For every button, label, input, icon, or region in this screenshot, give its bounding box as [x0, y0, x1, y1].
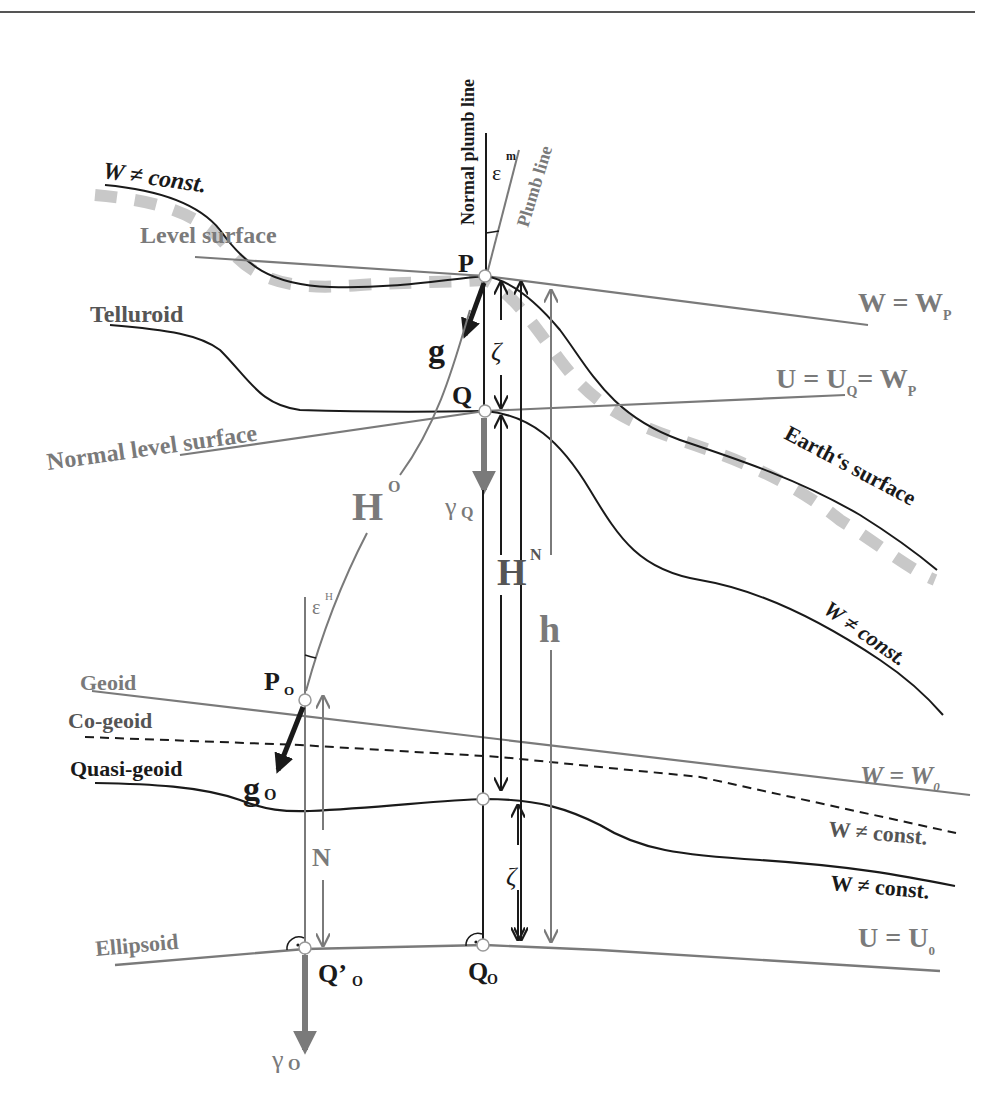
point-qo — [477, 939, 489, 951]
qo-base: Q — [468, 957, 488, 986]
u-eq-uq-base: U = U — [776, 363, 846, 394]
w-eq-wp-line — [485, 276, 868, 325]
u-eq-u0-base: U = U — [858, 922, 928, 953]
point-po — [299, 694, 311, 706]
u-eq-wp-mid: = W — [857, 363, 907, 394]
label-point-qo: Q O — [468, 957, 498, 987]
earths-surface-curve — [485, 276, 937, 570]
label-ellipsoid: Ellipsoid — [94, 929, 179, 961]
go-vector-arrow — [278, 707, 303, 770]
label-normal-level-surface: Normal level surface — [45, 420, 259, 475]
label-w-not-const-quasigeoid: W ≠ const. — [830, 870, 931, 904]
geodetic-height-diagram: W ≠ const. Level surface Telluroid Norma… — [0, 0, 1004, 1118]
label-g-o: g O — [243, 770, 276, 807]
label-plumb-line: Plumb line — [513, 143, 557, 229]
label-w-eq-w0: W = W0 — [860, 761, 940, 794]
label-zeta-top: ζ — [491, 337, 503, 366]
label-w-eq-wp: W = WP — [858, 287, 952, 323]
h-o-base: H — [352, 484, 383, 529]
label-epsilon-h: ε H — [312, 590, 333, 618]
label-w-not-const-cogeoid: W ≠ const. — [828, 816, 929, 850]
epsilon-h-sup: H — [325, 590, 333, 602]
label-quasi-geoid: Quasi-geoid — [70, 756, 182, 781]
label-gamma-o: γ O — [271, 1045, 300, 1074]
gamma-o-base: γ — [271, 1045, 284, 1074]
h-n-sup: N — [530, 546, 542, 563]
label-point-q: Q — [452, 381, 472, 410]
label-point-po: P O — [264, 667, 294, 698]
label-H-O: H O — [352, 478, 400, 529]
label-u-eq-uq-eq-wp: U = UQ= WP — [776, 363, 917, 399]
label-epsilon-m: ε m — [492, 149, 516, 185]
u-eq-uq-line — [485, 395, 845, 411]
gamma-o-sub: O — [288, 1056, 300, 1073]
w-eq-wp-sub: P — [943, 308, 952, 323]
h-o-sup: O — [388, 478, 400, 495]
w-not-const-right-curve — [485, 411, 943, 715]
u-eq-uq-sub: Q — [846, 384, 857, 399]
label-point-q-prime-o: Q’ O — [318, 959, 363, 989]
po-base: P — [264, 667, 280, 696]
label-g: g — [428, 332, 445, 369]
epsilon-h-angle-arc — [305, 655, 316, 658]
u-eq-u0-sub: 0 — [928, 943, 935, 958]
label-level-surface: Level surface — [140, 222, 277, 248]
h-n-base: H — [497, 551, 527, 593]
label-gamma-q: γ Q — [444, 492, 473, 521]
label-point-p: P — [458, 249, 474, 278]
label-zeta-bottom: ζ — [506, 862, 518, 891]
label-geoid: Geoid — [80, 670, 136, 695]
gamma-q-base: γ — [444, 492, 457, 521]
gamma-q-sub: Q — [461, 504, 473, 521]
go-sub: O — [264, 786, 276, 803]
epsilon-m-base: ε — [492, 160, 501, 185]
g-vector-arrow — [465, 283, 484, 335]
point-q-prime-o — [299, 942, 311, 954]
label-co-geoid: Co-geoid — [68, 708, 152, 733]
ellipsoid-line — [115, 945, 940, 971]
label-telluroid: Telluroid — [90, 301, 184, 327]
label-h: h — [539, 608, 560, 650]
qo-sub: O — [487, 972, 498, 987]
label-u-eq-u0: U = U0 — [858, 922, 935, 958]
u-eq-wp-sub: P — [908, 384, 917, 399]
w-eq-wp-base: W = W — [858, 287, 943, 318]
epsilon-m-sup: m — [506, 149, 516, 163]
q-prime-o-base: Q’ — [318, 959, 347, 988]
go-base: g — [243, 770, 260, 807]
point-quasi-geoid — [477, 793, 489, 805]
label-H-N: H N — [497, 546, 542, 593]
quasi-geoid-curve — [95, 783, 955, 886]
q-prime-o-sub: O — [352, 974, 363, 989]
epsilon-h-base: ε — [312, 596, 320, 618]
label-normal-plumb-line: Normal plumb line — [458, 79, 478, 225]
w-eq-w0-base: W = W — [860, 761, 935, 790]
w-eq-w0-sub: 0 — [933, 779, 940, 794]
po-sub: O — [284, 683, 294, 698]
point-p — [479, 270, 491, 282]
label-N: N — [312, 843, 331, 872]
label-w-not-const-right: W ≠ const. — [819, 596, 912, 671]
point-q — [479, 405, 491, 417]
